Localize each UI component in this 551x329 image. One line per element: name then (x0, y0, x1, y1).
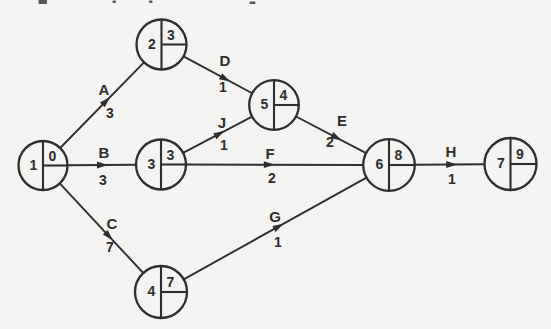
activity-letter: C (107, 215, 118, 232)
earliest-event-time: 8 (395, 147, 403, 163)
event-number: 4 (148, 283, 156, 299)
activity-letter: A (99, 81, 110, 98)
activity-duration: 1 (220, 137, 228, 153)
arrowhead-icon (264, 161, 275, 168)
earliest-event-time: 3 (167, 27, 175, 43)
edge-D: D1 (184, 52, 253, 96)
event-number: 3 (148, 156, 156, 172)
cropped-caption-fragment (113, 1, 117, 4)
activity-duration: 2 (268, 170, 276, 186)
activity-letter: B (99, 144, 110, 161)
earliest-event-time: 7 (167, 274, 175, 290)
activity-letter: G (269, 208, 281, 225)
edge-B: B3 (67, 144, 136, 189)
edge-C: C7 (60, 183, 144, 273)
activity-network-svg: A3B3C7D1J1F2E2G1H110233354476879 (0, 0, 551, 329)
event-number: 6 (376, 156, 384, 172)
activity-duration: 1 (274, 234, 282, 250)
edge-H: H1 (415, 143, 485, 188)
arrowhead-icon (97, 162, 108, 169)
edge-G: G1 (184, 178, 367, 280)
earliest-event-time: 9 (516, 146, 524, 162)
edge-E: E2 (296, 112, 366, 154)
node-6: 68 (363, 139, 415, 191)
edge-J: J1 (183, 114, 252, 154)
earliest-event-time: 0 (49, 148, 57, 164)
node-3: 33 (136, 140, 186, 190)
activity-letter: D (220, 52, 231, 69)
activity-duration: 3 (99, 172, 107, 188)
activity-duration: 2 (326, 134, 334, 150)
event-number: 1 (30, 157, 38, 173)
node-7: 79 (485, 138, 537, 190)
activity-arrow-line (60, 62, 144, 148)
activity-arrow-line (184, 56, 253, 93)
event-number: 2 (148, 36, 156, 52)
arrowhead-icon (446, 161, 457, 168)
activity-letter: E (337, 112, 347, 129)
figure-canvas: A3B3C7D1J1F2E2G1H110233354476879 (0, 0, 551, 329)
activity-duration: 3 (106, 105, 114, 121)
cropped-caption-fragment (149, 1, 153, 4)
activity-duration: 1 (448, 171, 456, 187)
activity-letter: F (265, 145, 274, 162)
node-2: 23 (137, 20, 187, 70)
activity-letter: H (446, 143, 457, 160)
activity-letter: J (218, 114, 226, 131)
activity-duration: 1 (219, 79, 227, 95)
cropped-caption-fragment (250, 2, 256, 5)
activity-arrow-line (60, 183, 144, 273)
cropped-caption-fragment (39, 0, 48, 4)
edge-A: A3 (60, 62, 144, 148)
node-1: 10 (19, 141, 68, 190)
event-number: 7 (497, 155, 505, 171)
edge-F: F2 (186, 145, 363, 187)
activity-duration: 7 (106, 239, 114, 255)
event-number: 5 (261, 96, 269, 112)
earliest-event-time: 4 (280, 87, 288, 103)
earliest-event-time: 3 (167, 147, 175, 163)
node-5: 54 (249, 80, 299, 130)
node-4: 47 (135, 266, 187, 318)
arrowhead-icon (272, 224, 283, 232)
